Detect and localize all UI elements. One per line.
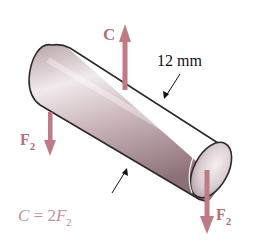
dimension-label: 12 mm bbox=[157, 52, 202, 69]
equation-eq: = 2 bbox=[29, 206, 56, 225]
equation-sub: 2 bbox=[66, 216, 72, 228]
arrow-down-icon bbox=[44, 140, 56, 156]
force-f2-left-subscript: 2 bbox=[30, 140, 36, 152]
equation-lhs: C bbox=[18, 206, 30, 225]
force-c-label: C bbox=[103, 25, 115, 44]
force-f2-left-shaft bbox=[48, 112, 53, 144]
force-c-shaft bbox=[123, 38, 128, 90]
equation-label: C = 2F2 bbox=[18, 206, 72, 228]
force-f2-left-arrow bbox=[44, 112, 56, 156]
force-f2-right-symbol: F bbox=[216, 206, 226, 223]
arrow-up-icon bbox=[119, 24, 131, 42]
dimension-leader-top bbox=[163, 74, 180, 99]
pin-loading-diagram: C F2 F2 12 mm C = 2F2 bbox=[0, 0, 256, 248]
force-f2-right-label: F2 bbox=[216, 206, 232, 227]
force-f2-left-symbol: F bbox=[20, 131, 30, 148]
arrow-down-icon bbox=[200, 216, 214, 234]
equation-var: F bbox=[55, 206, 67, 225]
force-f2-left-label: F2 bbox=[20, 131, 36, 152]
force-f2-right-shaft bbox=[205, 170, 210, 220]
dimension-leader-bottom bbox=[112, 168, 128, 193]
force-f2-right-subscript: 2 bbox=[226, 215, 232, 227]
